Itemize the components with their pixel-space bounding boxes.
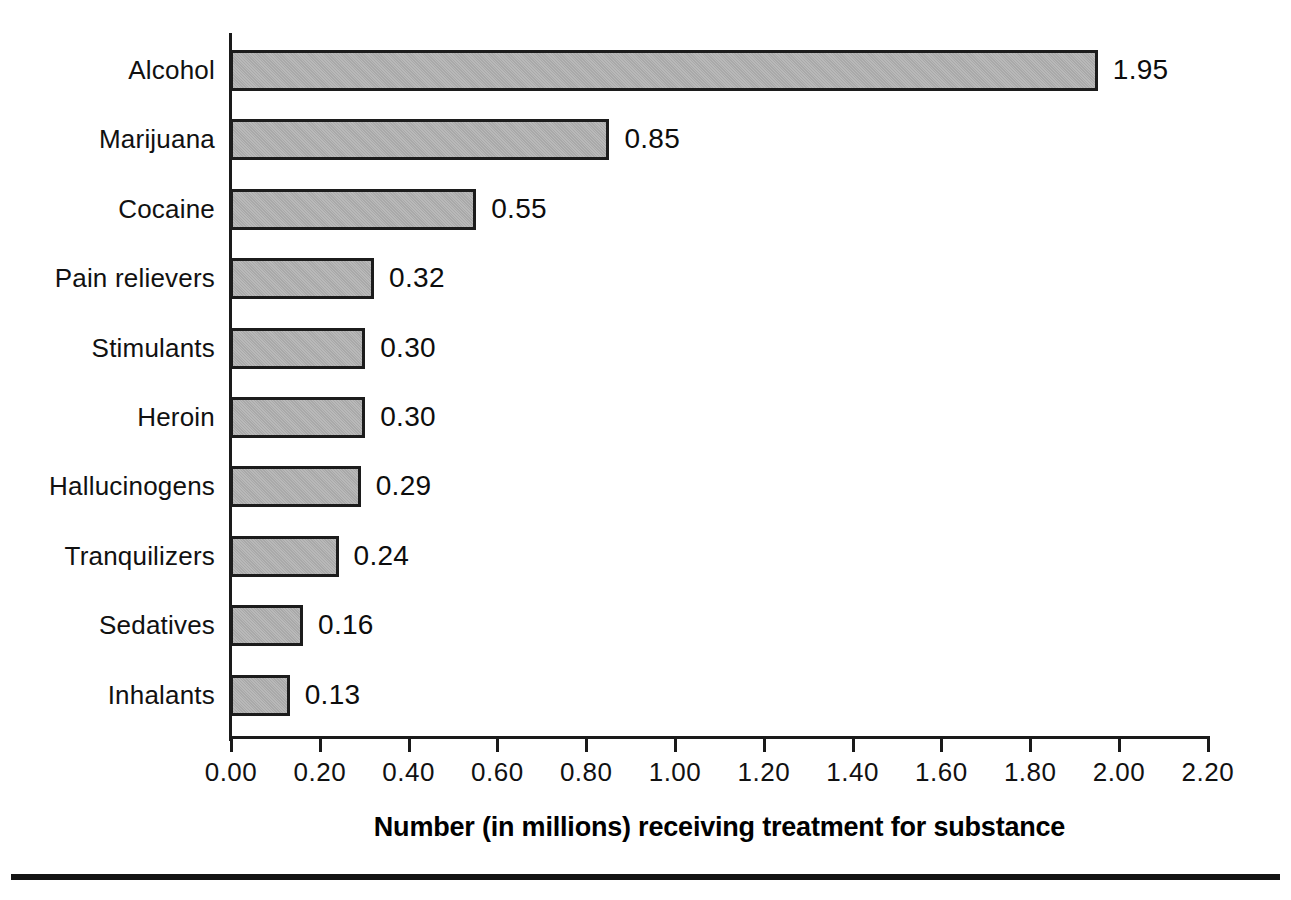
x-axis-tick (1207, 739, 1210, 752)
bar-value-label: 0.13 (305, 674, 361, 715)
bar-value-label: 0.55 (491, 188, 547, 229)
category-label: Heroin (137, 397, 215, 438)
bar-row: Cocaine0.55 (0, 189, 1291, 234)
x-axis-tick (585, 739, 588, 752)
bar (230, 189, 476, 230)
category-label: Inhalants (108, 675, 215, 716)
x-axis-title: Number (in millions) receiving treatment… (231, 812, 1208, 843)
bar (230, 675, 290, 716)
bar-value-label: 0.16 (318, 604, 374, 645)
x-axis-tick (1118, 739, 1121, 752)
x-axis-tick-label: 2.20 (1148, 757, 1268, 788)
bar-value-label: 0.30 (380, 327, 436, 368)
bar-value-label: 0.30 (380, 396, 436, 437)
bar-row: Tranquilizers0.24 (0, 536, 1291, 581)
category-label: Pain relievers (55, 258, 215, 299)
bar-row: Stimulants0.30 (0, 328, 1291, 373)
x-axis-tick (674, 739, 677, 752)
bar-value-label: 0.29 (376, 465, 432, 506)
category-label: Marijuana (99, 119, 215, 160)
bar (230, 50, 1098, 91)
bar-value-label: 0.85 (624, 118, 680, 159)
bar-row: Pain relievers0.32 (0, 258, 1291, 303)
category-label: Hallucinogens (49, 466, 215, 507)
x-axis-tick (1029, 739, 1032, 752)
x-axis-line (229, 736, 1210, 739)
bar-row: Heroin0.30 (0, 397, 1291, 442)
bar (230, 328, 365, 369)
bar (230, 466, 361, 507)
bar-value-label: 0.24 (354, 535, 410, 576)
bar (230, 536, 339, 577)
bar (230, 397, 365, 438)
x-axis-tick (763, 739, 766, 752)
x-axis-tick (230, 739, 233, 752)
x-axis-tick (496, 739, 499, 752)
bar-row: Inhalants0.13 (0, 675, 1291, 720)
bar-value-label: 1.95 (1113, 49, 1169, 90)
x-axis-tick (319, 739, 322, 752)
horizontal-bar-chart: 0.000.200.400.600.801.001.201.401.601.80… (0, 0, 1291, 900)
category-label: Alcohol (128, 50, 215, 91)
x-axis-tick (408, 739, 411, 752)
bar-value-label: 0.32 (389, 257, 445, 298)
bar (230, 258, 374, 299)
bar-row: Sedatives0.16 (0, 605, 1291, 650)
category-label: Tranquilizers (65, 536, 215, 577)
bottom-divider-rule (11, 874, 1280, 880)
x-axis-tick (852, 739, 855, 752)
category-label: Sedatives (99, 605, 215, 646)
bar-row: Hallucinogens0.29 (0, 466, 1291, 511)
bar-row: Marijuana0.85 (0, 119, 1291, 164)
category-label: Cocaine (118, 189, 215, 230)
bar (230, 119, 609, 160)
bar (230, 605, 303, 646)
category-label: Stimulants (92, 328, 215, 369)
x-axis-tick (940, 739, 943, 752)
bar-row: Alcohol1.95 (0, 50, 1291, 95)
